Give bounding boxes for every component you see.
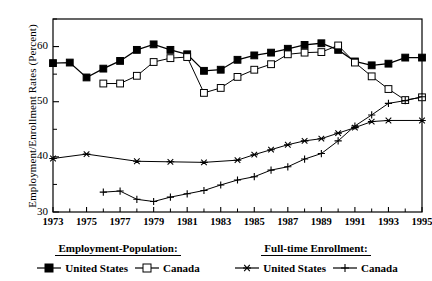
asterisk-icon — [234, 262, 260, 274]
legend-group-fulltime-enrollment: Full-time Enrollment: United States — [218, 238, 414, 274]
series-4 — [100, 93, 426, 205]
legend-entry-us-enrollment[interactable]: United States — [234, 262, 326, 274]
legend-entry-canada-enrollment[interactable]: Canada — [332, 262, 398, 274]
x-tick-label: 1987 — [277, 216, 298, 227]
x-tick-label: 1985 — [244, 216, 265, 227]
y-tick-label: 30 — [37, 205, 49, 217]
series-3 — [49, 118, 426, 166]
filled-square-icon — [36, 262, 62, 274]
y-tick-label: 60 — [37, 39, 49, 51]
y-tick-label: 40 — [37, 149, 49, 161]
legend-label-us-enrollment: United States — [263, 262, 326, 274]
x-tick-label: 1973 — [43, 216, 64, 227]
x-tick-label: 1983 — [210, 216, 231, 227]
x-tick-label: 1977 — [110, 216, 131, 227]
chart-container: Employment/Enrollment Rates (Percent) 30… — [0, 0, 432, 281]
open-square-icon — [134, 262, 160, 274]
x-tick-label: 1995 — [412, 216, 432, 227]
plus-icon — [332, 262, 358, 274]
legend-label-canada-enrollment: Canada — [361, 262, 398, 274]
x-tick-label: 1981 — [177, 216, 198, 227]
x-tick-label: 1975 — [76, 216, 97, 227]
y-tick-label: 50 — [37, 94, 49, 106]
plot-area: 3040506019731975197719791981198319851987… — [0, 0, 432, 238]
legend-title-employment-population: Employment-Population: — [55, 242, 180, 256]
legend-label-us-employment: United States — [65, 262, 128, 274]
series-line — [53, 120, 422, 162]
legend-row-fulltime-enrollment: United States Canada — [218, 262, 414, 274]
legend-row-employment-population: United States Canada — [22, 262, 214, 274]
chart-legend: Employment-Population: United States Can… — [0, 238, 432, 281]
series-line — [103, 97, 422, 202]
x-tick-label: 1979 — [143, 216, 164, 227]
x-tick-label: 1993 — [378, 216, 399, 227]
x-tick-label: 1989 — [311, 216, 332, 227]
x-tick-label: 1991 — [344, 216, 365, 227]
legend-group-employment-population: Employment-Population: United States Can… — [22, 238, 214, 274]
legend-entry-canada-employment[interactable]: Canada — [134, 262, 200, 274]
legend-label-canada-employment: Canada — [163, 262, 200, 274]
series-2 — [100, 42, 425, 103]
legend-entry-us-employment[interactable]: United States — [36, 262, 128, 274]
legend-title-fulltime-enrollment: Full-time Enrollment: — [261, 242, 370, 256]
